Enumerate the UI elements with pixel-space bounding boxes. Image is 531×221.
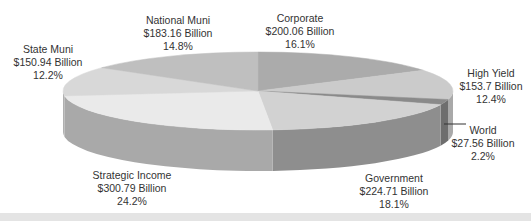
label-name: High Yield [459, 67, 522, 80]
label-value: $200.06 Billion [266, 25, 335, 38]
label-government: Government$224.71 Billion18.1% [360, 172, 429, 211]
label-world: World$27.56 Billion2.2% [451, 124, 514, 163]
slice-side-state-muni [63, 91, 65, 137]
label-value: $153.7 Billion [459, 80, 522, 93]
label-percent: 24.2% [93, 195, 172, 208]
label-corporate: Corporate$200.06 Billion16.1% [266, 12, 335, 51]
label-value: $27.56 Billion [451, 137, 514, 150]
label-name: Government [360, 172, 429, 185]
label-percent: 16.1% [266, 38, 335, 51]
label-name: World [451, 124, 514, 137]
label-state-muni: State Muni$150.94 Billion12.2% [14, 43, 83, 82]
label-percent: 12.2% [14, 69, 83, 82]
pie-chart: Corporate$200.06 Billion16.1%High Yield$… [0, 0, 531, 221]
label-name: State Muni [14, 43, 83, 56]
label-percent: 12.4% [459, 93, 522, 106]
label-percent: 14.8% [144, 40, 213, 53]
label-percent: 2.2% [451, 150, 514, 163]
label-value: $224.71 Billion [360, 185, 429, 198]
label-value: $300.79 Billion [93, 182, 172, 195]
label-strategic-income: Strategic Income$300.79 Billion24.2% [93, 169, 172, 208]
label-national-muni: National Muni$183.16 Billion14.8% [144, 14, 213, 53]
label-value: $183.16 Billion [144, 27, 213, 40]
label-name: National Muni [144, 14, 213, 27]
slice-side-world [441, 100, 449, 146]
bottom-border [0, 213, 531, 221]
label-percent: 18.1% [360, 198, 429, 211]
label-high-yield: High Yield$153.7 Billion12.4% [459, 67, 522, 106]
label-name: Strategic Income [93, 169, 172, 182]
label-value: $150.94 Billion [14, 56, 83, 69]
label-name: Corporate [266, 12, 335, 25]
